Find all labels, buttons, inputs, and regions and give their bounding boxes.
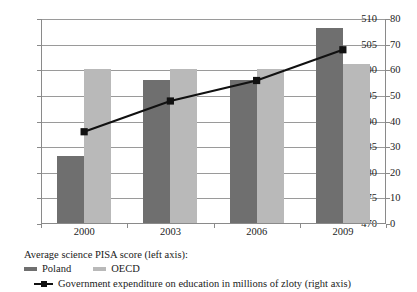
category-label: 2006 xyxy=(222,226,292,237)
bar-poland xyxy=(316,28,343,223)
right-axis-tick-label: 0 xyxy=(390,219,395,230)
bar-oecd xyxy=(257,69,284,223)
right-axis-tick-label: 40 xyxy=(390,117,401,128)
bar-oecd xyxy=(84,69,111,223)
chart-legend: Average science PISA score (left axis): … xyxy=(24,248,414,290)
legend-line-row: Government expenditure on education in m… xyxy=(34,277,414,290)
legend-label-expenditure: Government expenditure on education in m… xyxy=(58,277,351,290)
legend-line-marker-icon xyxy=(34,279,53,288)
bar-group xyxy=(143,19,197,223)
right-axis-tick-label: 50 xyxy=(390,91,401,102)
legend-label-poland: Poland xyxy=(42,262,71,275)
bar-group xyxy=(230,19,284,223)
bar-poland xyxy=(143,80,170,224)
category-tick xyxy=(300,224,301,228)
right-axis-tick-label: 80 xyxy=(390,14,401,25)
category-label: 2003 xyxy=(135,226,205,237)
legend-entry-poland: Poland xyxy=(24,262,71,275)
bar-group xyxy=(57,19,111,223)
category-tick xyxy=(127,224,128,228)
legend-label-oecd: OECD xyxy=(111,262,140,275)
legend-bar-row: Poland OECD xyxy=(24,262,414,275)
bar-poland xyxy=(230,80,257,224)
legend-swatch-oecd-icon xyxy=(93,267,106,271)
bar-group xyxy=(316,19,370,223)
category-tick xyxy=(41,224,42,228)
right-axis-line xyxy=(385,19,386,224)
chart-figure: 510505500495490485480475470 807060504030… xyxy=(0,0,417,292)
category-label: 2000 xyxy=(49,226,119,237)
legend-title: Average science PISA score (left axis): xyxy=(24,248,414,261)
left-axis-line xyxy=(41,19,42,224)
legend-swatch-poland-icon xyxy=(24,267,37,271)
bar-oecd xyxy=(170,69,197,223)
bar-oecd xyxy=(343,64,370,223)
bar-poland xyxy=(57,156,84,223)
category-tick xyxy=(214,224,215,228)
right-axis-tick-label: 70 xyxy=(390,40,401,51)
right-axis-tick-label: 60 xyxy=(390,65,401,76)
right-axis-tick-label: 10 xyxy=(390,193,401,204)
right-axis-tick-label: 30 xyxy=(390,142,401,153)
category-label: 2009 xyxy=(308,226,378,237)
legend-entry-oecd: OECD xyxy=(93,262,140,275)
category-tick xyxy=(386,224,387,228)
right-axis-tick-label: 20 xyxy=(390,168,401,179)
plot-area: 510505500495490485480475470 807060504030… xyxy=(41,19,386,224)
